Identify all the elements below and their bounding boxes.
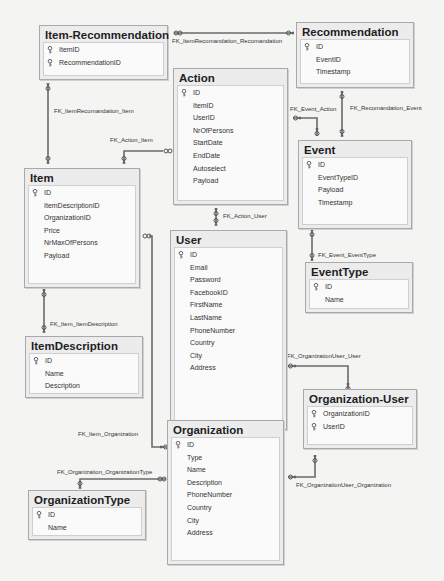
column-name: OrganizationID [323, 410, 370, 417]
table-itemdescription[interactable]: ItemDescription ID Name Description [25, 336, 143, 398]
column-row[interactable]: Type [172, 452, 279, 465]
column-name: EventTypeID [318, 174, 358, 181]
table-action[interactable]: Action ID ItemID UserID NrOfPersons Star… [173, 68, 288, 205]
column-name: City [187, 517, 199, 524]
column-row[interactable]: ID [172, 439, 279, 452]
column-row[interactable]: Address [172, 527, 279, 540]
column-row[interactable]: LastName [175, 312, 282, 325]
table-item[interactable]: Item ID ItemDescriptionID OrganizationID… [24, 168, 140, 288]
table-organizationtype[interactable]: OrganizationType ID Name [28, 490, 146, 540]
column-list: ID Name Description [29, 353, 139, 394]
column-row[interactable]: Payload [303, 184, 407, 197]
column-row[interactable]: ItemID [178, 100, 283, 113]
column-row[interactable]: Description [172, 477, 279, 490]
primary-key-icon [178, 251, 184, 259]
column-name: Name [45, 370, 64, 377]
column-row[interactable]: Description [30, 380, 138, 393]
column-row[interactable]: NrMaxOfPersons [29, 237, 135, 250]
column-name: Payload [193, 177, 218, 184]
column-row[interactable]: Price [29, 225, 135, 238]
fk-organizationuser-organization-label: FK_OrganizationUser_Organization [296, 481, 391, 489]
column-row[interactable]: Country [172, 502, 279, 515]
column-row[interactable]: ID [301, 41, 409, 54]
primary-key-icon [181, 89, 187, 97]
column-row[interactable]: OrganizationID [29, 212, 135, 225]
fk-item-itemdescription-label: FK_Item_ItemDescription [50, 320, 118, 328]
column-row[interactable]: Password [175, 274, 282, 287]
column-name: Autoselect [193, 165, 226, 172]
column-row[interactable]: ItemDescriptionID [29, 200, 135, 213]
table-recommendation[interactable]: Recommendation ID EventID Timestamp [296, 22, 414, 88]
fk-event-action-label: FK_Event_Action [290, 105, 336, 113]
column-row[interactable]: RecommendationID [44, 57, 163, 70]
column-name: Address [190, 364, 216, 371]
table-title: ItemDescription [29, 339, 139, 353]
column-row[interactable]: City [175, 350, 282, 363]
fk-itemrecommendation-recommendation-label: FK_ItemRecomandation_Recomandation [172, 37, 282, 45]
column-name: Payload [44, 252, 69, 259]
column-name: Description [187, 479, 222, 486]
table-organization[interactable]: Organization ID Type Name Description Ph… [167, 420, 284, 565]
table-organization-user[interactable]: Organization-User OrganizationID UserID [303, 389, 417, 449]
column-row[interactable]: UserID [178, 112, 283, 125]
column-row[interactable]: Name [172, 464, 279, 477]
column-row[interactable]: ID [310, 281, 408, 294]
column-row[interactable]: ID [175, 249, 282, 262]
fk-organizationuser-user-label: FK_OrganizationUser_User [287, 352, 361, 360]
column-row[interactable]: EndDate [178, 150, 283, 163]
column-row[interactable]: Name [310, 294, 408, 307]
column-name: Country [187, 504, 212, 511]
column-name: ItemDescriptionID [44, 202, 100, 209]
column-row[interactable]: Name [30, 368, 138, 381]
column-list: ID Email Password FacebookID FirstName L… [174, 247, 283, 426]
fk-event-eventtype-label: FK_Event_EventType [318, 251, 376, 259]
table-eventtype[interactable]: EventType ID Name [305, 262, 413, 313]
table-item-recommendation[interactable]: Item-Recommendation ItemID Recommendatio… [39, 25, 168, 80]
column-row[interactable]: Timestamp [301, 66, 409, 79]
primary-key-icon [32, 189, 38, 197]
column-row[interactable]: Payload [29, 250, 135, 263]
column-row[interactable]: Address [175, 362, 282, 375]
column-name: ID [318, 161, 325, 168]
primary-key-icon [175, 441, 181, 449]
primary-key-icon [306, 161, 312, 169]
column-list: OrganizationID UserID [307, 406, 413, 445]
column-name: ItemID [193, 102, 214, 109]
column-row[interactable]: Payload [178, 175, 283, 188]
primary-key-icon [304, 43, 310, 51]
column-row[interactable]: FacebookID [175, 287, 282, 300]
column-row[interactable]: ID [29, 187, 135, 200]
table-title: Item [28, 171, 136, 185]
column-name: Description [45, 382, 80, 389]
column-row[interactable]: Autoselect [178, 163, 283, 176]
column-row[interactable]: ID [303, 159, 407, 172]
column-row[interactable]: Country [175, 337, 282, 350]
fk-itemrecommendation-item-label: FK_ItemRecomandation_Item [54, 107, 134, 115]
column-row[interactable]: FirstName [175, 299, 282, 312]
column-row[interactable]: StartDate [178, 137, 283, 150]
column-name: RecommendationID [59, 59, 121, 66]
column-row[interactable]: Name [33, 522, 141, 535]
column-row[interactable]: Timestamp [303, 197, 407, 210]
column-row[interactable]: EventTypeID [303, 172, 407, 185]
column-row[interactable]: PhoneNumber [175, 325, 282, 338]
column-row[interactable]: ID [33, 509, 141, 522]
fk-item-organization-label: FK_Item_Organization [78, 430, 138, 438]
column-row[interactable]: ID [30, 355, 138, 368]
column-row[interactable]: City [172, 515, 279, 528]
column-row[interactable]: UserID [308, 421, 412, 434]
column-row[interactable]: ItemID [44, 44, 163, 57]
table-user[interactable]: User ID Email Password FacebookID FirstN… [170, 230, 287, 430]
column-name: OrganizationID [44, 214, 91, 221]
column-row[interactable]: EventID [301, 54, 409, 67]
column-list: ID ItemDescriptionID OrganizationID Pric… [28, 185, 136, 284]
column-name: Name [48, 524, 67, 531]
column-row[interactable]: OrganizationID [308, 408, 412, 421]
column-row[interactable]: Email [175, 262, 282, 275]
primary-key-icon [47, 59, 53, 67]
column-list: ID Name [32, 507, 142, 536]
column-row[interactable]: NrOfPersons [178, 125, 283, 138]
table-event[interactable]: Event ID EventTypeID Payload Timestamp [298, 140, 412, 229]
column-row[interactable]: ID [178, 87, 283, 100]
column-row[interactable]: PhoneNumber [172, 489, 279, 502]
